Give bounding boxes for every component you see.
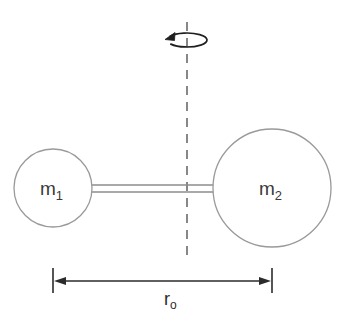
dimension-label: ro <box>164 289 177 312</box>
mass-m1-group: m1 <box>14 149 92 227</box>
mass-m2-group: m2 <box>213 129 331 247</box>
figure-canvas: m1 m2 ro <box>0 0 348 318</box>
dimension-arrowhead-left-icon <box>54 277 66 285</box>
rotation-arrowhead-icon <box>165 33 175 41</box>
dimension-arrowhead-right-icon <box>259 277 271 285</box>
rotation-arrow-group <box>165 33 207 47</box>
diagram-svg: m1 m2 ro <box>0 0 348 318</box>
rotation-arrow-icon <box>170 33 207 47</box>
mass-m2-subscript: 2 <box>275 188 282 203</box>
connecting-rod <box>92 185 214 192</box>
dimension-label-subscript: o <box>170 298 177 312</box>
mass-m1-subscript: 1 <box>56 188 63 203</box>
separation-dimension-group: ro <box>53 268 272 312</box>
